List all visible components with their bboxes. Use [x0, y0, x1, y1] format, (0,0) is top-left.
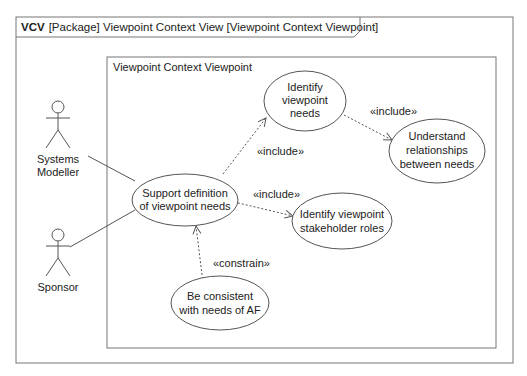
stereotype-label: «constrain»	[213, 257, 270, 269]
stick-figure-icon	[46, 229, 70, 276]
stereotype-label: «include»	[370, 105, 417, 117]
association-sponsor	[70, 210, 135, 247]
use-case-label: stakeholder roles	[300, 222, 384, 234]
actor-name: Modeller	[37, 166, 80, 178]
actor-sponsor[interactable]: Sponsor	[38, 229, 79, 293]
frame-kind-label: VCV	[21, 21, 45, 33]
use-case-identify-needs[interactable]: Identify viewpoint needs	[264, 71, 346, 131]
associations	[70, 156, 135, 247]
association-modeller	[88, 156, 135, 181]
use-case-understand[interactable]: Understand relationships between needs	[389, 119, 485, 183]
use-case-label: viewpoint	[282, 94, 328, 106]
use-case-label: needs	[290, 107, 320, 119]
use-case-label: Identify viewpoint	[300, 208, 384, 220]
constrain-arrow	[196, 226, 203, 283]
use-case-label: Be consistent	[187, 290, 253, 302]
use-case-label: Understand	[409, 130, 466, 142]
stick-figure-icon	[46, 101, 70, 148]
include-arrow	[234, 202, 293, 216]
actor-name: Systems	[37, 153, 80, 165]
use-case-label: Identify	[287, 81, 323, 93]
frame-title: [Package] Viewpoint Context View [Viewpo…	[49, 21, 379, 33]
use-case-label: with needs of AF	[178, 304, 261, 316]
use-case-consistent[interactable]: Be consistent with needs of AF	[171, 276, 269, 330]
include-arrow	[344, 115, 392, 140]
use-case-label: Support definition	[142, 187, 228, 199]
actor-systems-modeller[interactable]: Systems Modeller	[37, 101, 80, 178]
use-case-label: between needs	[400, 158, 475, 170]
use-case-label: relationships	[406, 144, 468, 156]
boundary-label: Viewpoint Context Viewpoint	[113, 61, 252, 73]
use-case-label: of viewpoint needs	[139, 200, 231, 212]
use-case-stakeholders[interactable]: Identify viewpoint stakeholder roles	[292, 193, 392, 249]
use-case-diagram: VCV[Package] Viewpoint Context View [Vie…	[0, 0, 527, 376]
frame-header: VCV[Package] Viewpoint Context View [Vie…	[21, 21, 378, 33]
stereotype-label: «include»	[253, 188, 300, 200]
use-case-support[interactable]: Support definition of viewpoint needs	[132, 174, 238, 226]
actor-name: Sponsor	[38, 281, 79, 293]
stereotype-label: «include»	[257, 145, 304, 157]
